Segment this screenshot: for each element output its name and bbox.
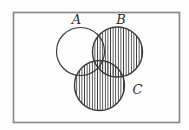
venn-figure: A B C	[0, 0, 189, 130]
set-a-label: A	[71, 12, 81, 27]
set-b-label: B	[115, 12, 126, 27]
venn-svg: A B C	[0, 0, 189, 130]
set-c-label: C	[133, 82, 143, 97]
